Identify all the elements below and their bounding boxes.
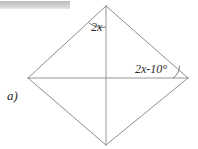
kite-edge-top-left xyxy=(28,6,106,78)
angle-label-right: 2x-10° xyxy=(135,63,167,75)
angle-label-top: 2x xyxy=(91,21,102,33)
part-label: a) xyxy=(7,89,18,102)
figure-canvas: 2x 2x-10° a) xyxy=(0,0,198,149)
kite-edge-bottom-left xyxy=(28,78,106,145)
kite-edge-bottom-right xyxy=(106,78,188,145)
